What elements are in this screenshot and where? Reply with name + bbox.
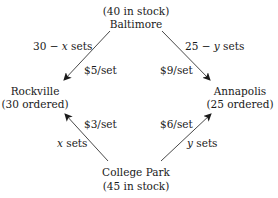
annapolis-label: Annapolis bbox=[214, 85, 267, 97]
qty-suffix: sets bbox=[68, 40, 93, 52]
collegepark-label: College Park bbox=[102, 166, 170, 178]
annapolis-orders: (25 ordered) bbox=[206, 98, 273, 110]
qty-suffix: sets bbox=[193, 137, 218, 149]
qty-suffix: sets bbox=[220, 40, 245, 52]
baltimore-label: Baltimore bbox=[110, 18, 162, 30]
qty-prefix: 25 − bbox=[185, 40, 214, 52]
edge-label-baltimore-rockville-cost: $5/set bbox=[84, 64, 117, 76]
edge-label-baltimore-rockville-qty: 30 − x sets bbox=[33, 40, 92, 52]
rockville-orders: (30 ordered) bbox=[1, 98, 68, 110]
edge-label-baltimore-annapolis-cost: $9/set bbox=[160, 64, 193, 76]
edge-label-collegepark-rockville-qty: x sets bbox=[57, 137, 87, 149]
qty-prefix: 30 − bbox=[33, 40, 62, 52]
qty-suffix: sets bbox=[63, 137, 88, 149]
collegepark-stock: (45 in stock) bbox=[103, 180, 170, 192]
edge-label-collegepark-annapolis-cost: $6/set bbox=[160, 118, 193, 130]
baltimore-stock: (40 in stock) bbox=[103, 5, 170, 17]
edge-label-collegepark-rockville-cost: $3/set bbox=[84, 118, 117, 130]
edge-label-baltimore-annapolis-qty: 25 − y sets bbox=[185, 40, 244, 52]
edge-label-collegepark-annapolis-qty: y sets bbox=[187, 137, 218, 149]
rockville-label: Rockville bbox=[11, 85, 60, 97]
